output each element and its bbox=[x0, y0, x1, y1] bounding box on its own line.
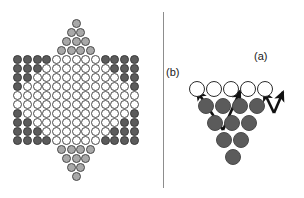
jump-peg-dark[interactable] bbox=[207, 115, 223, 131]
jump-peg-dark[interactable] bbox=[241, 115, 257, 131]
jump-peg-dark[interactable] bbox=[232, 98, 248, 114]
arrow-a-2-arrow-icon bbox=[274, 92, 283, 113]
jump-peg-dark[interactable] bbox=[233, 132, 249, 148]
board-peg-grey[interactable] bbox=[72, 172, 81, 181]
jump-peg-dark[interactable] bbox=[216, 132, 232, 148]
label-b: (b) bbox=[166, 66, 179, 78]
jump-row bbox=[206, 114, 258, 131]
jump-peg-dark[interactable] bbox=[215, 98, 231, 114]
jump-row bbox=[224, 148, 241, 165]
jump-row bbox=[188, 80, 274, 97]
jump-row bbox=[215, 131, 249, 148]
chinese-checkers-star[interactable] bbox=[0, 0, 152, 198]
jump-peg-hole[interactable] bbox=[257, 81, 273, 97]
jump-peg-hole[interactable] bbox=[189, 81, 205, 97]
jump-peg-hole[interactable] bbox=[240, 81, 256, 97]
jump-diagram-panel: (a) (b) bbox=[152, 0, 304, 198]
board-row bbox=[0, 171, 152, 181]
jump-peg-dark[interactable] bbox=[249, 98, 265, 114]
jump-peg-dark[interactable] bbox=[224, 115, 240, 131]
figure-root: (a) (b) bbox=[0, 0, 304, 198]
jump-peg-dark[interactable] bbox=[198, 98, 214, 114]
jump-move-diagram[interactable]: (a) (b) bbox=[152, 0, 304, 198]
label-a: (a) bbox=[254, 50, 267, 62]
jump-peg-hole[interactable] bbox=[206, 81, 222, 97]
star-board-panel bbox=[0, 0, 152, 198]
jump-peg-hole[interactable] bbox=[223, 81, 239, 97]
jump-peg-dark[interactable] bbox=[225, 149, 241, 165]
jump-row bbox=[197, 97, 266, 114]
